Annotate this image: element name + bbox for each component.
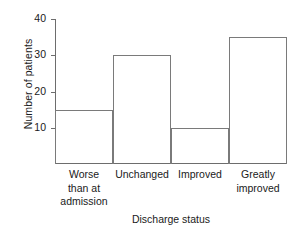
x-tick-label-line: Improved xyxy=(171,168,229,182)
y-tick-label-40: 40 xyxy=(34,12,46,25)
y-tick-20: 20 xyxy=(51,92,56,93)
x-tick-label-line: admission xyxy=(55,195,113,209)
histogram-figure: Number of patients 10 20 30 40 Worse tha… xyxy=(0,0,302,238)
y-tick-label-10: 10 xyxy=(34,121,46,134)
x-tick-label-line: Unchanged xyxy=(113,168,171,182)
bar-greatly-improved xyxy=(229,37,287,164)
x-axis-title: Discharge status xyxy=(55,213,287,225)
x-tick-label-worse-than-at-admission: Worse than at admission xyxy=(55,168,113,209)
x-tick-label-improved: Improved xyxy=(171,168,229,182)
bar-unchanged xyxy=(113,55,171,164)
x-tick-label-line: Worse xyxy=(55,168,113,182)
x-tick-label-line: than at xyxy=(55,182,113,196)
y-tick-30: 30 xyxy=(51,55,56,56)
y-tick-40: 40 xyxy=(51,19,56,20)
x-axis-tick-labels: Worse than at admission Unchanged Improv… xyxy=(55,168,287,210)
x-tick-label-line: Greatly xyxy=(229,168,287,182)
x-tick-label-greatly-improved: Greatly improved xyxy=(229,168,287,195)
x-tick-label-unchanged: Unchanged xyxy=(113,168,171,182)
plot-area: 10 20 30 40 xyxy=(55,19,287,164)
y-axis-title: Number of patients xyxy=(22,19,34,149)
x-tick-label-line: improved xyxy=(229,182,287,196)
y-tick-label-20: 20 xyxy=(34,85,46,98)
bar-improved xyxy=(171,128,229,164)
bar-worse-than-at-admission xyxy=(55,110,113,164)
y-tick-label-30: 30 xyxy=(34,48,46,61)
